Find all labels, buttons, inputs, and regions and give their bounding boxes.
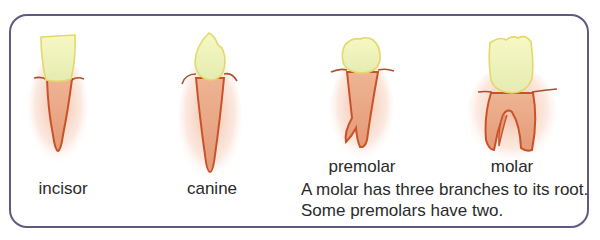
incisor-label: incisor <box>38 179 87 199</box>
molar-tooth <box>467 37 557 165</box>
premolar-tooth <box>330 38 394 162</box>
canine-label: canine <box>187 179 237 199</box>
diagram-caption: A molar has three branches to its root. … <box>301 179 591 221</box>
molar-label: molar <box>491 157 534 177</box>
premolar-label: premolar <box>328 157 395 177</box>
incisor-tooth <box>28 35 88 165</box>
canine-tooth <box>178 33 242 182</box>
